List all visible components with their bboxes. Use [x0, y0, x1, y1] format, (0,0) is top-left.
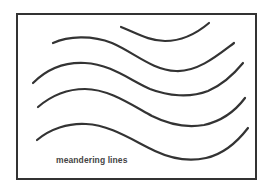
figure-caption: meandering lines: [56, 155, 128, 165]
meandering-lines-figure: meandering lines: [0, 0, 269, 191]
meandering-line-2: [53, 37, 234, 71]
meandering-line-1: [121, 23, 209, 41]
curves-layer: [0, 0, 269, 191]
meandering-line-4: [38, 89, 245, 126]
meandering-line-3: [33, 63, 243, 95]
